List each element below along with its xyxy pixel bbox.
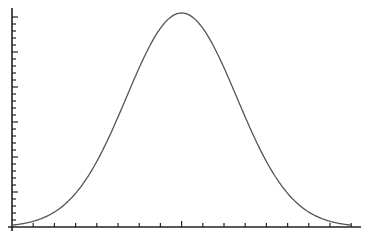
bell-curve-chart [0, 0, 371, 238]
gaussian-curve [12, 13, 351, 225]
y-axis [12, 8, 18, 231]
x-axis [8, 221, 361, 227]
